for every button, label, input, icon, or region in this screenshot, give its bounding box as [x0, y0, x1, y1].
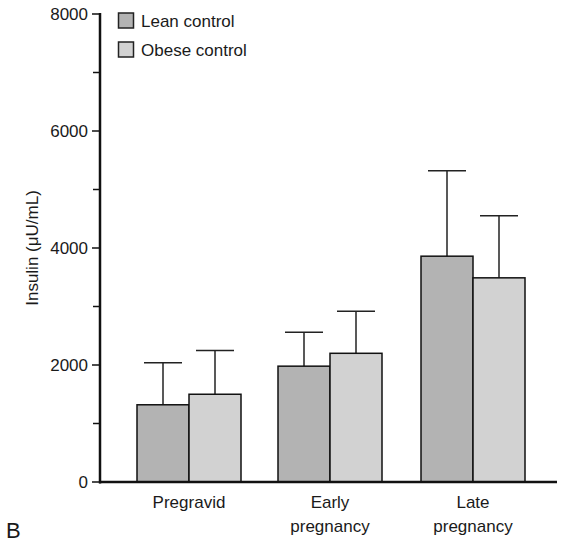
x-category-label: Early [311, 493, 350, 512]
x-axis: PregravidEarlypregnancyLatepregnancy [99, 482, 557, 536]
legend: Lean controlObese control [119, 12, 247, 60]
y-tick-label: 0 [79, 473, 88, 492]
y-tick-label: 4000 [50, 239, 88, 258]
bar-lean-control [421, 256, 473, 482]
bar-chart: 02000400060008000 PregravidEarlypregnanc… [0, 0, 568, 556]
bar-lean-control [278, 366, 330, 482]
legend-swatch [119, 42, 134, 57]
panel-label: B [6, 518, 21, 543]
legend-label: Lean control [141, 12, 235, 31]
bar-lean-control [137, 405, 189, 482]
x-category-label: Pregravid [153, 493, 226, 512]
bar-obese-control [189, 394, 241, 482]
legend-label: Obese control [141, 41, 247, 60]
y-axis: 02000400060008000 [50, 5, 100, 492]
bar-obese-control [330, 353, 382, 482]
y-tick-label: 2000 [50, 356, 88, 375]
bar-obese-control [473, 278, 525, 482]
x-category-label: pregnancy [433, 517, 513, 536]
y-axis-label: Insulin (μU/mL) [23, 190, 42, 306]
x-category-label: pregnancy [290, 517, 370, 536]
bars [137, 171, 525, 482]
y-tick-label: 6000 [50, 122, 88, 141]
legend-swatch [119, 13, 134, 28]
y-tick-label: 8000 [50, 5, 88, 24]
x-category-label: Late [456, 493, 489, 512]
